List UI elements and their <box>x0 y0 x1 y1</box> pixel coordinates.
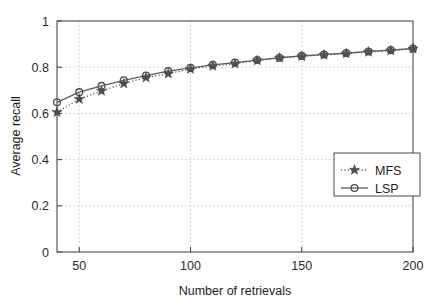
x-tick-label: 150 <box>291 259 312 273</box>
series-line <box>57 48 413 102</box>
x-tick-label: 200 <box>403 259 424 273</box>
x-axis-title: Number of retrievals <box>179 284 292 298</box>
y-axis-title: Average recall <box>9 96 23 176</box>
chart-figure: 00.20.40.60.81 50100150200 Number of ret… <box>0 0 446 308</box>
y-tick-marks <box>57 21 62 252</box>
series-lsp <box>54 45 417 106</box>
series-mfs <box>52 44 418 117</box>
y-tick-label: 0.4 <box>32 153 49 167</box>
y-tick-label: 0 <box>42 246 49 260</box>
x-tick-labels: 50100150200 <box>72 259 423 273</box>
x-tick-label: 100 <box>180 259 201 273</box>
y-tick-label: 1 <box>42 15 49 29</box>
x-gridlines <box>79 21 302 252</box>
y-tick-labels: 00.20.40.60.81 <box>32 15 49 260</box>
x-tick-label: 50 <box>72 259 86 273</box>
data-series-group <box>52 44 418 117</box>
chart-legend[interactable]: MFSLSP <box>334 153 420 196</box>
legend-label: MFS <box>375 164 401 178</box>
plot-frame <box>57 21 413 252</box>
y-tick-label: 0.2 <box>32 199 49 213</box>
y-tick-label: 0.8 <box>32 61 49 75</box>
x-tick-marks <box>79 247 413 252</box>
y-tick-label: 0.6 <box>32 107 49 121</box>
legend-label: LSP <box>375 182 399 196</box>
recall-vs-retrievals-chart: 00.20.40.60.81 50100150200 Number of ret… <box>0 0 446 308</box>
